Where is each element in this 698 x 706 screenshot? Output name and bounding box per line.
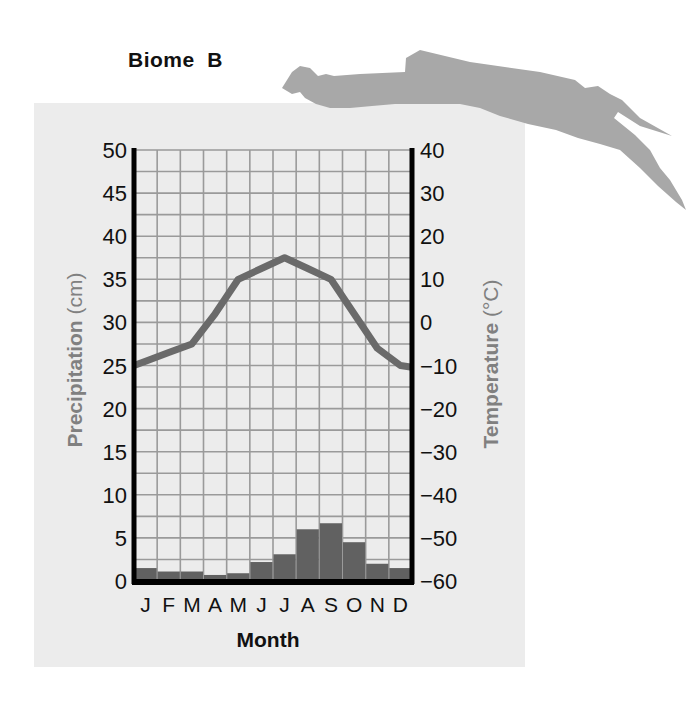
month-tick-label: F bbox=[162, 593, 175, 616]
month-tick-label: N bbox=[370, 593, 385, 616]
temperature-tick-label: 40 bbox=[420, 138, 444, 163]
y-axis-right-label-unit: (°C) bbox=[479, 279, 502, 322]
chart-figure: Biome B 05101520253035404550 −60−50−40−3… bbox=[0, 0, 698, 706]
precipitation-bar bbox=[297, 529, 319, 581]
y-axis-right-label-main: Temperature bbox=[479, 323, 502, 449]
y-axis-left-label-unit: (cm) bbox=[63, 272, 86, 320]
precipitation-bar bbox=[343, 542, 365, 581]
precipitation-bar bbox=[320, 523, 342, 581]
temperature-tick-label: 30 bbox=[420, 181, 444, 206]
precipitation-bar bbox=[274, 554, 296, 581]
precipitation-tick-labels: 05101520253035404550 bbox=[103, 138, 127, 594]
y-axis-left-label: Precipitation (cm) bbox=[63, 272, 86, 447]
month-tick-label: J bbox=[140, 593, 151, 616]
precipitation-tick-label: 20 bbox=[103, 397, 127, 422]
precipitation-bar bbox=[250, 562, 272, 581]
month-tick-label: M bbox=[230, 593, 248, 616]
precipitation-tick-label: 15 bbox=[103, 440, 127, 465]
month-tick-label: O bbox=[346, 593, 362, 616]
y-axis-right-label: Temperature (°C) bbox=[479, 279, 502, 448]
temperature-tick-label: −60 bbox=[420, 569, 457, 594]
temperature-tick-labels: −60−50−40−30−20−10010203040 bbox=[420, 138, 457, 594]
temperature-tick-label: −10 bbox=[420, 354, 457, 379]
precipitation-tick-label: 0 bbox=[115, 569, 127, 594]
precipitation-tick-label: 10 bbox=[103, 483, 127, 508]
y-axis-left-label-main: Precipitation bbox=[63, 320, 86, 447]
month-tick-label: J bbox=[279, 593, 290, 616]
month-tick-label: D bbox=[393, 593, 408, 616]
x-axis-label: Month bbox=[237, 628, 300, 651]
temperature-tick-label: 20 bbox=[420, 224, 444, 249]
temperature-tick-label: −30 bbox=[420, 440, 457, 465]
precipitation-tick-label: 35 bbox=[103, 267, 127, 292]
climate-chart: 05101520253035404550 −60−50−40−30−20−100… bbox=[0, 0, 698, 706]
temperature-tick-label: −40 bbox=[420, 483, 457, 508]
temperature-tick-label: 10 bbox=[420, 267, 444, 292]
temperature-tick-label: 0 bbox=[420, 310, 432, 335]
temperature-tick-label: −20 bbox=[420, 397, 457, 422]
precipitation-tick-label: 5 bbox=[115, 526, 127, 551]
chart-grid bbox=[134, 150, 412, 581]
precipitation-tick-label: 40 bbox=[103, 224, 127, 249]
month-tick-label: A bbox=[208, 593, 222, 616]
precipitation-tick-label: 25 bbox=[103, 354, 127, 379]
month-tick-label: S bbox=[324, 593, 338, 616]
month-tick-label: M bbox=[183, 593, 201, 616]
precipitation-tick-label: 30 bbox=[103, 310, 127, 335]
month-tick-labels: JFMAMJJASOND bbox=[140, 593, 408, 616]
precipitation-bar bbox=[366, 564, 388, 581]
month-tick-label: J bbox=[256, 593, 267, 616]
temperature-tick-label: −50 bbox=[420, 526, 457, 551]
precipitation-tick-label: 50 bbox=[103, 138, 127, 163]
month-tick-label: A bbox=[301, 593, 315, 616]
precipitation-tick-label: 45 bbox=[103, 181, 127, 206]
